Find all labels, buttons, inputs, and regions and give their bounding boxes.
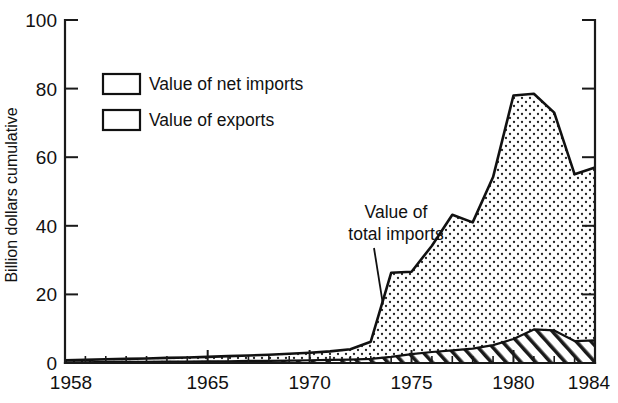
y-tick-label: 80	[36, 79, 57, 100]
x-tick-label: 1975	[390, 372, 432, 393]
dotted-swatch	[103, 74, 140, 94]
x-tick-label: 1980	[492, 372, 534, 393]
legend-label-exports: Value of exports	[149, 110, 274, 130]
legend-label-net-imports: Value of net imports	[149, 74, 304, 94]
hatched-swatch	[103, 110, 140, 130]
y-tick-label: 40	[36, 216, 57, 237]
plot-area	[65, 94, 595, 363]
y-tick-labels: 020406080100	[25, 10, 57, 374]
x-tick-label: 1984	[568, 372, 611, 393]
y-tick-label: 0	[46, 353, 57, 374]
x-tick-label: 1970	[288, 372, 330, 393]
y-axis-title: Billion dollars cumulative	[3, 107, 20, 282]
chart-figure: 020406080100 195819651970197519801984 Bi…	[0, 0, 618, 403]
annotation-line-2: total imports	[348, 224, 444, 244]
legend: Value of net imports Value of exports	[103, 74, 304, 130]
y-axis-title-group: Billion dollars cumulative	[3, 107, 20, 282]
annotation-line-1: Value of	[365, 202, 428, 222]
y-ticks-left	[65, 20, 78, 363]
y-tick-label: 20	[36, 284, 57, 305]
x-tick-label: 1958	[50, 372, 92, 393]
chart-canvas: 020406080100 195819651970197519801984 Bi…	[0, 0, 618, 403]
x-tick-label: 1965	[187, 372, 229, 393]
x-tick-labels: 195819651970197519801984	[50, 372, 611, 393]
y-tick-label: 100	[25, 10, 57, 31]
area-net-imports	[65, 94, 595, 363]
y-tick-label: 60	[36, 147, 57, 168]
annotation-leader-line	[374, 248, 383, 305]
